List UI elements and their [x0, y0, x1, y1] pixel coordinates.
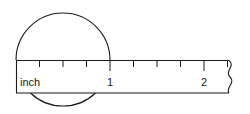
- oval-lower-arc: [31, 93, 96, 106]
- oval-upper-arc: [16, 13, 110, 60]
- ruler-body-fill: [16, 60, 231, 93]
- ruler-unit-label: inch: [20, 76, 40, 88]
- ruler-label-1: 1: [107, 76, 113, 88]
- ruler-measurement-figure: inch 1 2: [0, 0, 250, 114]
- break-squiggle-icon: [228, 61, 232, 94]
- ruler-diagram-svg: inch 1 2: [0, 0, 250, 114]
- ruler-label-2: 2: [201, 76, 207, 88]
